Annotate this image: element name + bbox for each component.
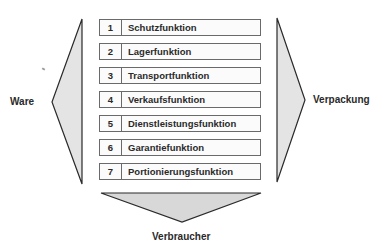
function-label: Schutzfunktion	[122, 22, 197, 33]
function-label: Verkaufsfunktion	[122, 94, 205, 105]
function-number: 5	[100, 116, 122, 131]
bottom-arrow-verbraucher	[101, 193, 261, 222]
left-arrow-ware	[52, 19, 82, 184]
function-number: 3	[100, 68, 122, 83]
function-row: 4 Verkaufsfunktion	[99, 91, 261, 108]
function-number: 4	[100, 92, 122, 107]
function-number: 1	[100, 20, 122, 35]
label-ware: Ware	[10, 96, 34, 107]
function-row: 2 Lagerfunktion	[99, 43, 261, 60]
function-label: Portionierungsfunktion	[122, 166, 233, 177]
right-arrow-verpackung	[277, 18, 305, 182]
function-number: 6	[100, 140, 122, 155]
label-verpackung: Verpackung	[313, 94, 370, 105]
function-label: Lagerfunktion	[122, 46, 191, 57]
label-verbraucher: Verbraucher	[152, 231, 210, 242]
function-number: 2	[100, 44, 122, 59]
function-row: 1 Schutzfunktion	[99, 19, 261, 36]
function-row: 3 Transportfunktion	[99, 67, 261, 84]
function-row: 5 Dienstleistungsfunktion	[99, 115, 261, 132]
function-label: Transportfunktion	[122, 70, 209, 81]
function-row: 6 Garantiefunktion	[99, 139, 261, 156]
function-label: Dienstleistungsfunktion	[122, 118, 236, 129]
function-label: Garantiefunktion	[122, 142, 204, 153]
function-number: 7	[100, 164, 122, 179]
function-row: 7 Portionierungsfunktion	[99, 163, 261, 180]
